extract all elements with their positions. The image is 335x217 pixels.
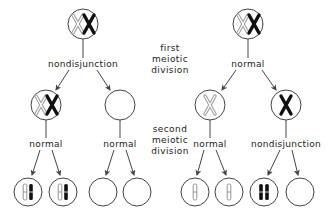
chromatid-light-icon (23, 184, 27, 200)
right-second-division-label-2: nondisjunction (251, 139, 321, 150)
left-first-division-label: nondisjunction (48, 59, 118, 70)
left-second-division-label-1: normal (29, 139, 62, 150)
left-tree (14, 9, 151, 206)
second-meiotic-division-label: second meiotic division (151, 124, 189, 157)
right-first-division-label: normal (231, 59, 264, 70)
chromatid-dark-icon (259, 184, 263, 200)
right-gamete-4 (286, 178, 314, 206)
chromatid-dark-icon (64, 184, 68, 200)
stage-label-line: first (151, 43, 189, 54)
left-second-division-label-2: normal (103, 139, 136, 150)
left-gamete-4 (123, 178, 151, 206)
stage-label-line: division (151, 65, 189, 76)
right-tree (181, 9, 314, 206)
left-secondary-cell-2 (105, 90, 135, 120)
right-gamete-3 (250, 178, 278, 206)
chromatid-light-icon (193, 184, 197, 200)
stage-label-line: second (151, 124, 189, 135)
stage-label-line: division (151, 146, 189, 157)
left-gamete-1 (14, 178, 42, 206)
chromatid-light-icon (227, 184, 231, 200)
chromatid-light-icon (58, 184, 62, 200)
left-gamete-2 (49, 178, 77, 206)
stage-label-line: meiotic (151, 54, 189, 65)
right-second-division-label-1: normal (193, 139, 226, 150)
chromatid-dark-icon (29, 184, 33, 200)
chromatid-dark-icon (265, 184, 269, 200)
meiosis-nondisjunction-diagram (0, 0, 335, 217)
stage-label-line: meiotic (151, 135, 189, 146)
first-meiotic-division-label: first meiotic division (151, 43, 189, 76)
left-gamete-3 (89, 178, 117, 206)
